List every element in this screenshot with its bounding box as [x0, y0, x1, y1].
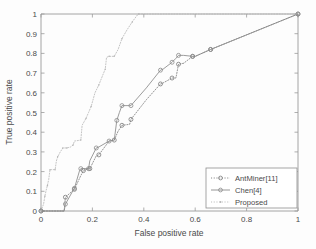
- data-point-dot: [54, 169, 56, 171]
- roc-chart-screenshot: 00.20.40.60.81 00.10.20.30.40.50.60.70.8…: [0, 0, 316, 249]
- roc-plot: 00.20.40.60.81 00.10.20.30.40.50.60.70.8…: [0, 0, 316, 249]
- legend-label: Proposed: [235, 198, 268, 207]
- data-point-dot: [138, 13, 140, 15]
- y-tick-label: 1: [33, 10, 38, 19]
- legend: AntMiner[11]Chen[4]Proposed: [206, 168, 297, 208]
- y-tick-label: 0.8: [26, 49, 38, 58]
- data-point-dot: [47, 185, 49, 187]
- data-point-marker: [97, 153, 101, 157]
- legend-marker: [220, 201, 222, 203]
- data-point-dot: [44, 195, 46, 197]
- figure-canvas: 00.20.40.60.81 00.10.20.30.40.50.60.70.8…: [0, 0, 316, 249]
- data-point-dot: [113, 56, 115, 58]
- data-point-dot: [80, 139, 82, 141]
- y-tick-label: 0.4: [26, 128, 38, 137]
- legend-label: Chen[4]: [235, 186, 262, 195]
- data-point-dot: [108, 56, 110, 58]
- x-tick-label: 0.6: [190, 215, 202, 224]
- y-tick-label: 0: [33, 207, 38, 216]
- y-tick-label: 0.2: [26, 168, 38, 177]
- data-point-dot: [131, 21, 133, 23]
- y-axis-label: True positive rate: [4, 79, 14, 145]
- y-tick-label: 0.3: [26, 148, 38, 157]
- y-tick-label: 0.7: [26, 69, 38, 78]
- data-point-dot: [85, 118, 87, 120]
- data-point-dot: [40, 210, 42, 212]
- data-point-dot: [90, 106, 92, 108]
- y-tick-label: 0.1: [26, 187, 38, 196]
- data-point-dot: [49, 169, 51, 171]
- x-tick-label: 1: [296, 215, 301, 224]
- x-tick-label: 0.8: [241, 215, 253, 224]
- data-point-dot: [62, 147, 64, 149]
- legend-label: AntMiner[11]: [235, 174, 278, 183]
- y-tick-label: 0.6: [26, 89, 38, 98]
- data-point-dot: [66, 147, 68, 149]
- y-tick-label: 0.9: [26, 30, 38, 39]
- data-point-dot: [121, 38, 123, 40]
- x-tick-label: 0.2: [87, 215, 99, 224]
- data-point-dot: [105, 68, 107, 70]
- y-tick-label: 0.5: [26, 109, 38, 118]
- data-point-dot: [72, 144, 74, 146]
- x-axis-label: False positive rate: [135, 228, 204, 238]
- data-point-dot: [98, 84, 100, 86]
- x-tick-label: 0.4: [138, 215, 150, 224]
- data-point-dot: [57, 156, 59, 158]
- x-tick-label: 0: [39, 215, 44, 224]
